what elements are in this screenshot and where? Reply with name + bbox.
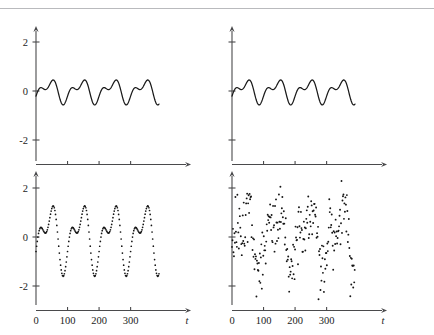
- scatter-point: [283, 223, 285, 225]
- scatter-point: [345, 204, 347, 206]
- signal-dot: [117, 207, 119, 209]
- signal-dot: [54, 210, 56, 212]
- scatter-point: [293, 246, 295, 248]
- scatter-point: [266, 223, 268, 225]
- signal-dot: [154, 264, 156, 266]
- scatter-point: [327, 241, 329, 243]
- scatter-point: [268, 222, 270, 224]
- scatter-point: [317, 226, 319, 228]
- scatter-point: [262, 274, 264, 276]
- signal-dot: [132, 236, 134, 238]
- signal-dot: [151, 231, 153, 233]
- scatter-point: [320, 266, 322, 268]
- signal-dot: [121, 245, 123, 247]
- scatter-point: [338, 230, 340, 232]
- signal-dot: [148, 207, 150, 209]
- scatter-point: [292, 265, 294, 267]
- scatter-point: [296, 239, 298, 241]
- signal-dot: [126, 275, 128, 277]
- y-tick-label: -2: [19, 281, 28, 292]
- scatter-point: [334, 232, 336, 234]
- scatter-point: [312, 222, 314, 224]
- scatter-point: [240, 235, 242, 237]
- panel-top-left: -202: [19, 26, 191, 167]
- scatter-point: [247, 241, 249, 243]
- signal-dot: [149, 210, 151, 212]
- scatter-point: [340, 222, 342, 224]
- scatter-point: [281, 196, 283, 198]
- scatter-point: [289, 274, 291, 276]
- scatter-point: [255, 255, 257, 257]
- signal-dot: [109, 231, 111, 233]
- scatter-point: [285, 217, 287, 219]
- scatter-point: [326, 243, 328, 245]
- scatter-point: [354, 269, 356, 271]
- signal-dot: [150, 219, 152, 221]
- x-tick-label: 100: [256, 315, 272, 326]
- scatter-point: [348, 218, 350, 220]
- signal-dot: [64, 270, 66, 272]
- signal-dot: [70, 230, 72, 232]
- scatter-point: [278, 194, 280, 196]
- figure-panel-grid: -202-2020100200300t0100200300t: [0, 0, 434, 335]
- signal-dot: [46, 231, 48, 233]
- x-axis-label: t: [186, 315, 190, 326]
- scatter-point: [322, 245, 324, 247]
- scatter-point: [280, 212, 282, 214]
- scatter-point: [279, 228, 281, 230]
- scatter-point: [239, 215, 241, 217]
- signal-dot: [141, 229, 143, 231]
- signal-dot: [80, 220, 82, 222]
- signal-dot: [82, 208, 84, 210]
- scatter-point: [320, 289, 322, 291]
- signal-dot: [79, 224, 81, 226]
- scatter-point: [292, 244, 294, 246]
- scatter-point: [323, 291, 325, 293]
- scatter-point: [309, 214, 311, 216]
- signal-dot: [81, 213, 83, 215]
- signal-dot: [144, 217, 146, 219]
- scatter-point: [247, 202, 249, 204]
- scatter-point: [341, 232, 343, 234]
- scatter-point: [315, 207, 317, 209]
- scatter-point: [300, 227, 302, 229]
- scatter-point: [233, 251, 235, 253]
- scatter-point: [305, 227, 307, 229]
- scatter-point: [337, 237, 339, 239]
- scatter-point: [264, 245, 266, 247]
- scatter-point: [310, 225, 312, 227]
- signal-dot: [86, 210, 88, 212]
- scatter-point: [248, 212, 250, 214]
- scatter-point: [310, 200, 312, 202]
- scatter-point: [237, 231, 239, 233]
- signal-curve: [232, 80, 355, 105]
- signal-dot: [86, 214, 88, 216]
- signal-dot: [69, 236, 71, 238]
- scatter-point: [281, 207, 283, 209]
- scatter-point: [238, 248, 240, 250]
- signal-dot: [127, 273, 129, 275]
- signal-dot: [114, 208, 116, 210]
- scatter-point: [284, 244, 286, 246]
- scatter-point: [346, 194, 348, 196]
- signal-dot: [88, 225, 90, 227]
- scatter-point: [258, 262, 260, 264]
- scatter-point: [318, 250, 320, 252]
- signal-dot: [92, 269, 94, 271]
- signal-dot: [113, 210, 115, 212]
- signal-dot: [36, 245, 38, 247]
- scatter-point: [347, 234, 349, 236]
- signal-dot: [37, 236, 39, 238]
- scatter-point: [335, 219, 337, 221]
- signal-dot: [118, 214, 120, 216]
- scatter-point: [327, 250, 329, 252]
- scatter-point: [254, 253, 256, 255]
- signal-dot: [90, 252, 92, 254]
- signal-dot: [98, 251, 100, 253]
- scatter-point: [306, 222, 308, 224]
- signal-dot: [48, 224, 50, 226]
- signal-dot: [99, 245, 101, 247]
- scatter-point: [257, 270, 259, 272]
- scatter-point: [236, 246, 238, 248]
- signal-dot: [117, 210, 119, 212]
